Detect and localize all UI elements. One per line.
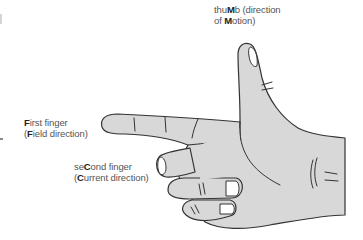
second-finger-label-line2: (Current direction) bbox=[74, 172, 149, 183]
little-nail bbox=[220, 204, 234, 214]
edge-mark-top bbox=[0, 14, 2, 24]
first-finger-label-line1: First finger bbox=[24, 117, 88, 128]
second-finger-label: seCond finger (Current direction) bbox=[74, 161, 149, 183]
ring-nail bbox=[226, 181, 239, 196]
second-finger-label-line1: seCond finger bbox=[74, 161, 149, 172]
thumb-label: thuMb (direction of Motion) bbox=[214, 4, 281, 26]
edge-mark-mid bbox=[0, 138, 3, 140]
first-finger-label: First finger (Field direction) bbox=[24, 117, 88, 139]
thumb-label-line1: thuMb (direction bbox=[214, 4, 281, 15]
thumb-label-line2: of Motion) bbox=[214, 15, 281, 26]
first-finger-label-line2: (Field direction) bbox=[24, 128, 88, 139]
